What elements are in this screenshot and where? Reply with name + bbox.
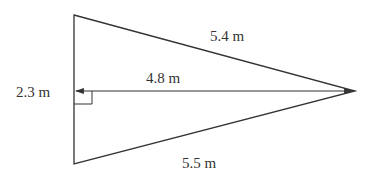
right-angle-marker [74, 91, 92, 104]
altitude-label: 4.8 m [146, 70, 180, 86]
base-segment-label: 2.3 m [16, 84, 50, 100]
top-side-label: 5.4 m [210, 28, 244, 44]
triangle-diagram [0, 0, 372, 177]
bottom-side-label: 5.5 m [182, 155, 216, 171]
